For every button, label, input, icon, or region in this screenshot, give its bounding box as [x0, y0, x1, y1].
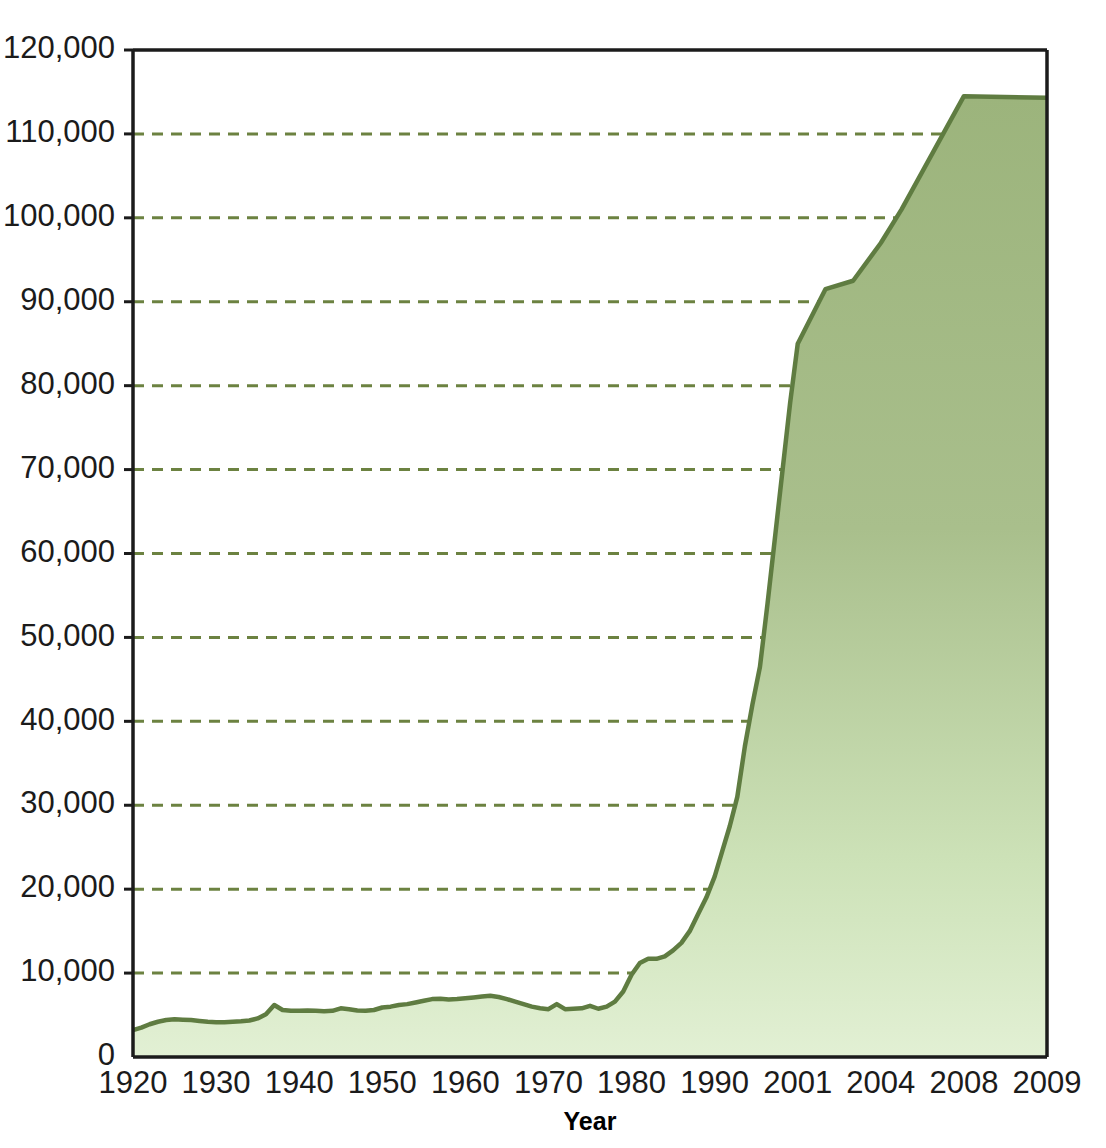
x-tick-label: 2004	[846, 1065, 915, 1100]
y-tick-label: 110,000	[5, 114, 115, 149]
x-tick-label: 1950	[348, 1065, 417, 1100]
y-tick-label: 70,000	[20, 450, 115, 485]
x-tick-label: 1930	[182, 1065, 251, 1100]
y-tick-label: 120,000	[3, 30, 115, 65]
x-tick-label: 1940	[265, 1065, 334, 1100]
x-axis-title: Year	[564, 1107, 617, 1135]
y-tick-label: 100,000	[3, 198, 115, 233]
y-tick-label: 50,000	[20, 618, 115, 653]
y-tick-label: 20,000	[20, 869, 115, 904]
x-tick-label: 2008	[929, 1065, 998, 1100]
x-tick-label: 1990	[680, 1065, 749, 1100]
x-tick-label: 1980	[597, 1065, 666, 1100]
x-tick-label: 1920	[99, 1065, 168, 1100]
y-tick-label: 30,000	[20, 785, 115, 820]
area-chart-figure: 010,00020,00030,00040,00050,00060,00070,…	[0, 0, 1106, 1148]
y-tick-label: 80,000	[20, 366, 115, 401]
x-tick-label: 2009	[1013, 1065, 1082, 1100]
y-tick-label: 90,000	[20, 282, 115, 317]
y-tick-label: 10,000	[20, 953, 115, 988]
y-tick-label: 60,000	[20, 534, 115, 569]
x-tick-label: 2001	[763, 1065, 832, 1100]
chart-canvas: 010,00020,00030,00040,00050,00060,00070,…	[0, 0, 1106, 1148]
y-tick-label: 40,000	[20, 702, 115, 737]
x-tick-label: 1960	[431, 1065, 500, 1100]
x-tick-label: 1970	[514, 1065, 583, 1100]
